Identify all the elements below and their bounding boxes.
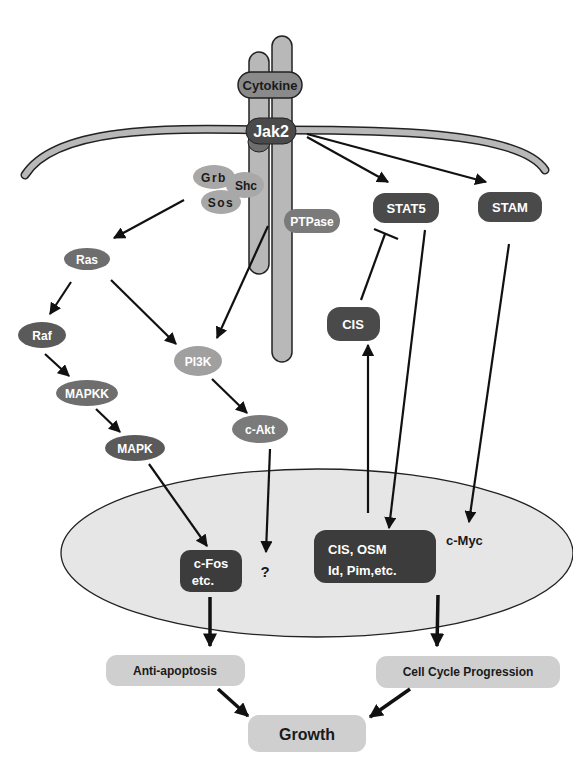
node-pi3k[interactable]: PI3K [174,346,222,376]
cytokine-label: Cytokine [243,78,298,93]
raf-label: Raf [32,329,52,343]
mapkk-label: MAPKK [65,387,109,401]
node-ras[interactable]: Ras [64,248,110,270]
ptpase-label: PTPase [290,215,334,229]
edge-stam-cmyc [469,244,509,522]
node-raf[interactable]: Raf [18,322,66,348]
growth-label: Growth [279,726,335,743]
edge-ptpase-pi3k [217,226,268,338]
edge-raf-mapkk [45,354,69,376]
cmyc-label: c-Myc [446,533,483,548]
jak2-label: Jak2 [253,123,289,140]
unknown-target-label: ? [260,563,269,580]
node-stat5-targets[interactable]: CIS, OSM Id, Pim,etc. [314,530,436,583]
stat5-label: STAT5 [386,201,425,216]
ras-label: Ras [76,253,98,267]
cfos-label-line1: c-Fos [194,556,229,571]
node-cytokine[interactable]: Cytokine [238,72,302,98]
edge-ras-pi3k [111,280,176,344]
node-mapk[interactable]: MAPK [105,435,165,461]
targets-label-line2: Id, Pim,etc. [328,563,397,578]
edge-mapkk-mapk [96,409,120,432]
anti-apoptosis-label: Anti-apoptosis [133,664,217,678]
signaling-diagram: Cytokine Jak2 Grb Shc Sos PTPase STAT5 S… [0,0,573,771]
node-cfos[interactable]: c-Fos etc. [180,550,242,592]
shc-label: Shc [235,179,257,193]
edge-ras-raf [50,282,71,314]
stam-label: STAM [492,200,528,215]
edge-grb-ras [114,200,184,238]
edge-cis-stat5-inhibition [361,234,385,300]
inhibition-bar [374,229,398,239]
node-mapkk[interactable]: MAPKK [56,380,118,406]
outcome-anti-apoptosis[interactable]: Anti-apoptosis [106,655,245,686]
edge-anti-apoptosis-growth [218,689,248,716]
edge-pi3k-cakt [212,379,247,413]
mapk-label: MAPK [117,442,153,456]
sos-label: Sos [208,196,235,210]
cis-label: CIS [342,317,364,332]
edge-cell-cycle-growth [370,689,410,717]
cakt-label: c-Akt [245,423,275,437]
node-cakt[interactable]: c-Akt [232,415,288,443]
node-stam[interactable]: STAM [478,192,542,222]
cell-cycle-label: Cell Cycle Progression [403,665,534,679]
grb-label: Grb [201,171,227,185]
node-cis[interactable]: CIS [327,307,380,341]
node-ptpase[interactable]: PTPase [284,209,340,233]
node-stat5[interactable]: STAT5 [373,193,439,223]
targets-label-line1: CIS, OSM [328,542,387,557]
outcome-cell-cycle[interactable]: Cell Cycle Progression [376,656,560,688]
edge-targets-cell-cycle [437,595,438,646]
outcome-growth[interactable]: Growth [248,715,366,752]
cfos-label-line2: etc. [192,573,214,588]
pi3k-label: PI3K [185,355,212,369]
